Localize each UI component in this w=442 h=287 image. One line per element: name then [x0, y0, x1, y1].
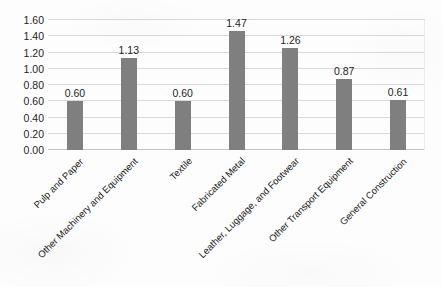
y-axis-tick-label: 0.60 [0, 96, 44, 107]
bar-value-label: 0.60 [52, 88, 98, 99]
y-axis-tick-labels: 0.000.200.400.600.801.001.201.401.60 [0, 20, 44, 150]
x-axis-category-label: Other Machinery and Equipment [36, 156, 139, 259]
bar-value-label: 1.26 [267, 35, 313, 46]
y-axis-tick-label: 0.20 [0, 129, 44, 140]
bar [121, 58, 137, 150]
y-axis-tick-label: 0.80 [0, 80, 44, 91]
x-axis-category-label: Pulp and Paper [32, 156, 85, 209]
bar [282, 48, 298, 150]
bar-chart: 0.000.200.400.600.801.001.201.401.60 0.6… [0, 0, 442, 287]
x-axis-category-label: Textile [168, 156, 194, 182]
bar-value-label: 0.60 [160, 88, 206, 99]
bar [67, 101, 83, 150]
bar [175, 101, 191, 150]
bar [336, 79, 352, 150]
y-axis-tick-label: 0.40 [0, 112, 44, 123]
bar [390, 100, 406, 150]
x-axis-category-labels: Pulp and PaperOther Machinery and Equipm… [0, 150, 442, 287]
y-axis-tick-label: 1.20 [0, 47, 44, 58]
x-axis-category-label: Leather, Luggage, and Footwear [197, 156, 301, 260]
plot-area [48, 20, 425, 150]
y-axis-tick-label: 1.40 [0, 31, 44, 42]
bar-value-label: 0.61 [375, 87, 421, 98]
y-axis-tick-label: 1.00 [0, 64, 44, 75]
bar-value-label: 0.87 [321, 66, 367, 77]
bar-value-label: 1.13 [106, 45, 152, 56]
plot-right-edge [424, 20, 425, 150]
x-axis-category-label: Fabricated Metal [190, 156, 247, 213]
bar [229, 31, 245, 150]
y-axis-tick-label: 1.60 [0, 15, 44, 26]
bar-value-label: 1.47 [214, 18, 260, 29]
